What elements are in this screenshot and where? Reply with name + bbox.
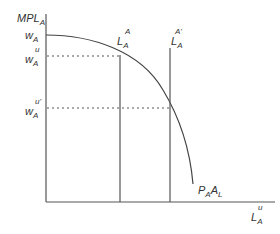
x-axis-label: LA [251, 212, 262, 226]
w-a-u-sup: u [35, 46, 39, 54]
x-axis-sup: u [258, 204, 262, 212]
l-a-a-sup: A [125, 28, 130, 36]
w-a-u-prime-sup: u' [35, 98, 41, 106]
diagram-canvas [0, 0, 280, 234]
w-a-u-prime-label: wA [25, 106, 38, 120]
w-a-u-label: wA [25, 54, 38, 68]
l-a-a-prime-label: LA [171, 36, 182, 50]
y-axis-label: MPLA [17, 13, 45, 27]
curve-label: PAAL [198, 185, 222, 199]
w-a-label: wA [25, 30, 38, 44]
l-a-a-label: LA [117, 36, 128, 50]
